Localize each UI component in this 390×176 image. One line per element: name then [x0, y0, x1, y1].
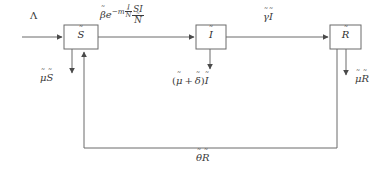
- transmission-exp-fraction: I˜N: [125, 4, 133, 19]
- flow-connectors: [0, 0, 390, 176]
- label-loss-of-immunity: ˜θ˜R: [196, 153, 210, 163]
- tilde-accent-death-s: ˜: [48, 69, 53, 77]
- tilde-accent-mu-s: ˜: [41, 69, 46, 77]
- tilde-accent-removal-i: ˜: [204, 72, 209, 80]
- label-removal-i: (˜μ+˜δ)˜I: [172, 76, 209, 86]
- diagram-canvas: ˜S ˜I ˜R Λ ˜βe−mI˜NSI˜N ˜γ˜I ˜μ˜S (˜μ+˜δ…: [0, 0, 390, 176]
- label-recovery-rate: ˜γ˜I: [263, 12, 273, 22]
- label-natural-death-s: ˜μ˜S: [40, 73, 53, 83]
- tilde-accent-i: ˜: [209, 26, 214, 34]
- tilde-accent-death-r: ˜: [363, 70, 368, 78]
- tilde-accent-mu-r: ˜: [356, 70, 361, 78]
- tilde-accent-mu-i: ˜: [177, 72, 182, 80]
- tilde-accent-r: ˜: [343, 26, 348, 34]
- compartment-label-s: ˜S: [64, 30, 98, 40]
- tilde-accent-beta: ˜: [101, 6, 106, 14]
- compartment-label-i: ˜I: [196, 30, 226, 40]
- tilde-accent-immunity-r: ˜: [203, 149, 208, 157]
- transmission-exp-minus-m: −m: [112, 7, 125, 16]
- label-natural-death-r: ˜μ˜R: [355, 74, 369, 84]
- tilde-accent-recovery-i: ˜: [269, 8, 274, 16]
- removal-plus: +: [182, 75, 194, 86]
- tilde-accent-delta: ˜: [196, 72, 201, 80]
- tilde-accent-exp-n: ˜: [127, 9, 130, 14]
- tilde-accent-gamma: ˜: [264, 8, 269, 16]
- tilde-accent-s: ˜: [79, 26, 84, 34]
- compartment-label-r: ˜R: [330, 30, 361, 40]
- transmission-exponent: −mI˜N: [112, 7, 133, 16]
- tilde-accent-frac-n: ˜: [136, 12, 140, 19]
- tilde-accent-theta: ˜: [197, 149, 202, 157]
- label-recruitment: Λ: [30, 11, 37, 21]
- transmission-fraction: SI˜N: [132, 5, 144, 24]
- label-transmission-rate: ˜βe−mI˜NSI˜N: [100, 4, 144, 25]
